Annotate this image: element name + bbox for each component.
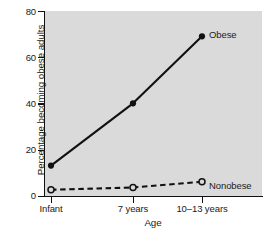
series-label-obese: Obese: [209, 30, 237, 40]
series-label-nonobese: Nonobese: [209, 181, 252, 191]
figure: 80 60 40 20 0 Infant 7 years 10–13 years…: [0, 0, 279, 238]
nonobese-point-10-13-years: [199, 179, 205, 185]
obese-point-7-years: [130, 100, 136, 106]
nonobese-point-7-years: [130, 185, 136, 191]
obese-line: [51, 36, 202, 165]
nonobese-line: [51, 182, 202, 190]
series-layer: [0, 0, 279, 238]
nonobese-point-infant: [48, 187, 54, 193]
obese-point-infant: [48, 163, 54, 169]
obese-point-10-13-years: [199, 33, 205, 39]
